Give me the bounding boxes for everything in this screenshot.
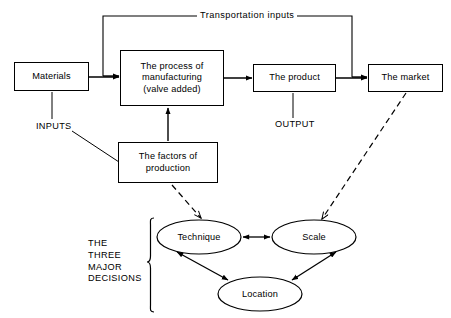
box-the-product: The product [253, 64, 336, 92]
box-materials-label: Materials [32, 71, 71, 83]
market-to-scale-dashed-arrow [322, 93, 406, 219]
box-product-label: The product [269, 72, 320, 84]
scale-location-double-arrow [292, 252, 336, 280]
box-factors-label: The factors of production [139, 151, 197, 174]
scale-ellipse [272, 220, 356, 254]
box-process-of-manufacturing: The process of manufacturing (valve adde… [120, 50, 224, 106]
factors-to-technique-dashed-arrow [172, 185, 201, 218]
box-factors-of-production: The factors of production [118, 142, 218, 183]
box-materials: Materials [14, 62, 89, 91]
three-decisions-brace [147, 218, 154, 312]
output-label: OUTPUT [275, 119, 315, 131]
inputs-label: INPUTS [36, 121, 72, 133]
technique-ellipse [157, 220, 241, 254]
technique-location-double-arrow [177, 252, 228, 280]
box-process-label: The process of manufacturing (valve adde… [141, 61, 204, 96]
box-the-market: The market [368, 64, 443, 92]
location-ellipse [218, 277, 302, 311]
diagram-connectors-layer [0, 0, 451, 318]
process-flow-diagram: Materials The process of manufacturing (… [0, 0, 451, 318]
three-major-decisions-label: THE THREE MAJOR DECISIONS [88, 238, 142, 285]
transportation-inputs-label: Transportation inputs [197, 10, 297, 22]
box-market-label: The market [382, 72, 430, 84]
